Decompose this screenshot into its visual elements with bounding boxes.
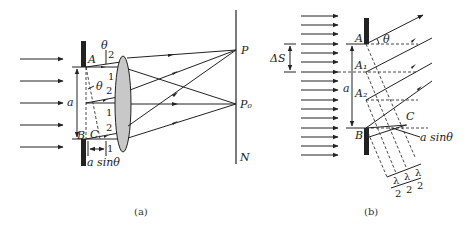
- label-B: B: [76, 129, 85, 142]
- ray-number: 1: [107, 143, 113, 154]
- label-theta-b: θ: [383, 33, 390, 46]
- ray-number: 1: [106, 107, 112, 118]
- label-two: 2: [395, 188, 401, 199]
- label-N: N: [239, 151, 250, 164]
- label-P0: P₀: [239, 98, 252, 111]
- slit-bottom-bar: [81, 139, 86, 166]
- label-A: A: [87, 53, 96, 66]
- label-two: 2: [417, 180, 423, 191]
- caption-a: (a): [134, 206, 148, 217]
- caption-b: (b): [364, 206, 378, 217]
- label-theta-mid: θ: [96, 80, 103, 93]
- label-lambda: λ: [404, 171, 411, 182]
- label-two: 2: [406, 184, 412, 195]
- label-A-b: A: [354, 32, 363, 45]
- incident-light-arrows: [20, 59, 63, 147]
- label-A1: A₁: [354, 59, 367, 72]
- label-a-b: a: [343, 82, 350, 95]
- figure-a: a θ θ 2 1 2 1 2 1 A B C a sinθ: [20, 10, 252, 217]
- slit-bottom-bar-b: [364, 128, 369, 155]
- ray-number: 2: [106, 122, 112, 133]
- diffraction-diagram: a θ θ 2 1 2 1 2 1 A B C a sinθ: [0, 0, 475, 231]
- label-a-sin-theta-b: a sinθ: [420, 131, 453, 144]
- focused-rays: [127, 50, 236, 138]
- label-A2: A₂: [354, 87, 367, 100]
- figure-b: ΔS a θ: [269, 15, 453, 217]
- ray-number: 2: [106, 85, 112, 96]
- slit-top-bar-b: [364, 18, 369, 44]
- label-a-sin-theta: a sinθ: [87, 156, 120, 169]
- label-delta-s: ΔS: [269, 52, 286, 65]
- incident-light-arrows-b: [301, 16, 338, 155]
- label-theta-top: θ: [101, 39, 108, 52]
- label-P: P: [240, 44, 249, 57]
- diffracted-rays: [366, 15, 432, 137]
- label-lambda: λ: [415, 167, 422, 178]
- ray-number: 1: [108, 71, 114, 82]
- label-B-b: B: [354, 129, 363, 142]
- slit-top-bar: [81, 41, 86, 67]
- label-C: C: [90, 128, 99, 141]
- label-a: a: [67, 96, 74, 109]
- ray-number: 2: [108, 49, 114, 60]
- label-C-b: C: [406, 110, 415, 123]
- label-lambda: λ: [393, 175, 400, 186]
